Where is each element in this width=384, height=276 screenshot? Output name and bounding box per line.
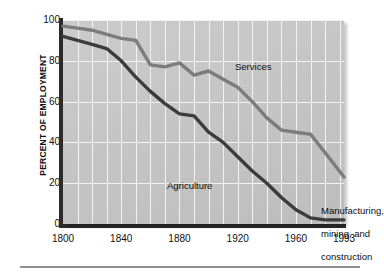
series-lines <box>63 20 344 224</box>
footer-rule <box>20 266 360 268</box>
series-label-manufacturing-line1: Manufacturing, <box>321 205 384 217</box>
x-tick-label: 1960 <box>274 233 318 244</box>
x-tick-label: 1800 <box>41 233 85 244</box>
x-tick-label: 1920 <box>216 233 260 244</box>
plot-area: Services Agriculture Manufacturing, mini… <box>63 20 344 224</box>
series-label-manufacturing: Manufacturing, mining, and construction <box>321 193 384 274</box>
x-axis-line <box>59 224 346 228</box>
x-tick-label: 1840 <box>99 233 143 244</box>
series-label-manufacturing-line3: construction <box>321 251 384 263</box>
series-label-agriculture: Agriculture <box>167 180 212 192</box>
x-tick-label: 1880 <box>157 233 201 244</box>
series-line-agriculture <box>63 36 344 220</box>
series-label-services: Services <box>235 61 271 73</box>
series-label-manufacturing-line2: mining, and <box>321 228 384 240</box>
